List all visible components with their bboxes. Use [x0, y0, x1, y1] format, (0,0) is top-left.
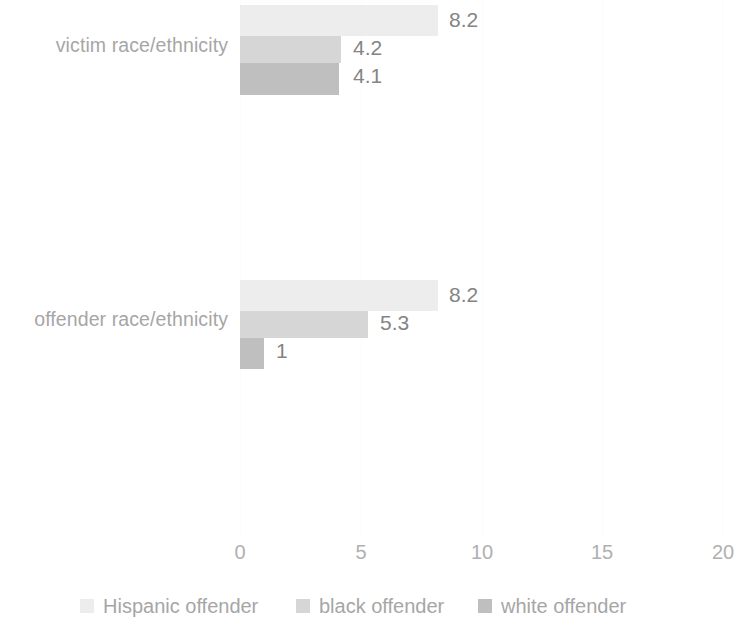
- legend-label-hispanic: Hispanic offender: [103, 592, 258, 620]
- bar-chart: 8.2 4.2 4.1 8.2 5.3 1 victim race/ethnic…: [0, 0, 743, 625]
- plot-area: 8.2 4.2 4.1 8.2 5.3 1: [240, 0, 723, 538]
- x-tick-15: 15: [591, 538, 613, 566]
- bar-victim-white[interactable]: [240, 63, 339, 95]
- x-tick-20: 20: [712, 538, 734, 566]
- bar-offender-white[interactable]: [240, 338, 264, 369]
- legend-label-white: white offender: [501, 592, 626, 620]
- x-axis: 0 5 10 15 20: [0, 538, 743, 572]
- legend-item-white[interactable]: white offender: [478, 592, 626, 620]
- bar-offender-hispanic[interactable]: [240, 280, 438, 311]
- legend-swatch-hispanic-icon: [80, 599, 94, 613]
- legend-item-black[interactable]: black offender: [296, 592, 444, 620]
- legend: Hispanic offender black offender white o…: [0, 592, 743, 625]
- x-tick-0: 0: [234, 538, 245, 566]
- bar-victim-black[interactable]: [240, 36, 341, 63]
- gridline-10: [482, 0, 483, 538]
- legend-swatch-black-icon: [296, 599, 310, 613]
- data-label-victim-hispanic: 8.2: [449, 8, 478, 32]
- x-tick-5: 5: [355, 538, 366, 566]
- x-tick-10: 10: [471, 538, 493, 566]
- data-label-offender-hispanic: 8.2: [449, 283, 478, 307]
- bar-offender-black[interactable]: [240, 311, 368, 338]
- data-label-victim-black: 4.2: [353, 36, 382, 60]
- bar-victim-hispanic[interactable]: [240, 5, 438, 36]
- data-label-victim-white: 4.1: [353, 64, 382, 88]
- data-label-offender-black: 5.3: [380, 311, 409, 335]
- gridline-20: [723, 0, 724, 538]
- legend-item-hispanic[interactable]: Hispanic offender: [80, 592, 258, 620]
- legend-swatch-white-icon: [478, 599, 492, 613]
- data-label-offender-white: 1: [276, 339, 288, 363]
- gridline-15: [602, 0, 603, 538]
- category-label-victim: victim race/ethnicity: [56, 33, 228, 57]
- legend-label-black: black offender: [319, 592, 444, 620]
- category-label-offender: offender race/ethnicity: [34, 307, 228, 331]
